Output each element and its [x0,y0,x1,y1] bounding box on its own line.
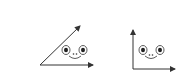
nostril-icon [152,54,154,56]
nostril-icon [76,53,78,55]
angles-diagram [0,0,180,81]
nostril-icon [149,54,151,56]
nostril-icon [73,53,75,55]
eye-pupil-icon [141,48,145,53]
ray-arrow-1 [40,26,80,65]
acute-angle [40,26,93,65]
smile-mouth-icon [69,56,81,59]
eye-pupil-icon [158,48,162,53]
smile-mouth-icon [145,56,157,59]
eye-pupil-icon [81,48,85,53]
right-angle [133,30,175,69]
eye-pupil-icon [64,48,68,53]
